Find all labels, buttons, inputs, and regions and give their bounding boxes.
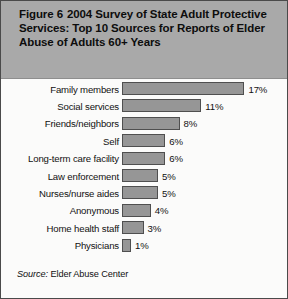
bar-value-label: 4% — [155, 204, 169, 217]
bar — [122, 221, 144, 234]
bar — [122, 117, 180, 130]
figure-title: Figure 62004 Survey of State Adult Prote… — [19, 7, 275, 50]
bar-row: Nurses/nurse aides5% — [1, 185, 288, 202]
source-label: Source: — [17, 269, 48, 279]
bar-wrap — [122, 134, 165, 147]
source-note: Source: Elder Abuse Center — [17, 269, 128, 279]
bar-value-label: 6% — [169, 135, 183, 148]
bar-wrap — [122, 169, 158, 182]
bar-chart-plot: Family members17%Social services11%Frien… — [1, 81, 288, 256]
bar-wrap — [122, 239, 131, 252]
bar-value-label: 1% — [135, 239, 149, 252]
bar-category-label: Long-term care facility — [5, 152, 119, 165]
title-band: Figure 62004 Survey of State Adult Prote… — [1, 1, 288, 79]
bar-wrap — [122, 186, 158, 199]
bar-row: Long-term care facility6% — [1, 151, 288, 168]
bar-wrap — [122, 221, 144, 234]
bar-value-label: 11% — [205, 100, 223, 113]
bar — [122, 204, 151, 217]
bar-value-label: 17% — [248, 83, 267, 96]
bar — [122, 239, 131, 252]
bar-row: Self6% — [1, 133, 288, 150]
figure-container: Figure 62004 Survey of State Adult Prote… — [0, 0, 288, 299]
bar — [122, 186, 158, 199]
bar-row: Friends/neighbors8% — [1, 116, 288, 133]
bar-row: Family members17% — [1, 81, 288, 98]
figure-number: Figure 6 — [19, 8, 63, 20]
bar — [122, 169, 158, 182]
bar — [122, 134, 165, 147]
bar-row: Law enforcement5% — [1, 168, 288, 185]
bar-value-label: 8% — [184, 117, 198, 130]
bar-wrap — [122, 99, 201, 112]
bar-row: Social services11% — [1, 98, 288, 115]
bar-row: Home health staff3% — [1, 220, 288, 237]
bar-value-label: 3% — [148, 222, 162, 235]
bar-category-label: Self — [5, 135, 119, 148]
bar — [122, 99, 201, 112]
bar-row: Physicians1% — [1, 238, 288, 255]
bar-category-label: Nurses/nurse aides — [5, 187, 119, 200]
bar-wrap — [122, 117, 180, 130]
bar-row: Anonymous4% — [1, 203, 288, 220]
bar-category-label: Social services — [5, 100, 119, 113]
bar-wrap — [122, 82, 244, 95]
bar-category-label: Physicians — [5, 239, 119, 252]
bar-category-label: Anonymous — [5, 204, 119, 217]
bar-category-label: Family members — [5, 83, 119, 96]
bar — [122, 82, 244, 95]
bar-wrap — [122, 152, 165, 165]
source-value: Elder Abuse Center — [50, 269, 128, 279]
bar-value-label: 5% — [162, 170, 176, 183]
bar-value-label: 6% — [169, 152, 183, 165]
bar-wrap — [122, 204, 151, 217]
bar-value-label: 5% — [162, 187, 176, 200]
bar — [122, 152, 165, 165]
bar-category-label: Home health staff — [5, 222, 119, 235]
bar-category-label: Law enforcement — [5, 170, 119, 183]
bar-category-label: Friends/neighbors — [5, 117, 119, 130]
